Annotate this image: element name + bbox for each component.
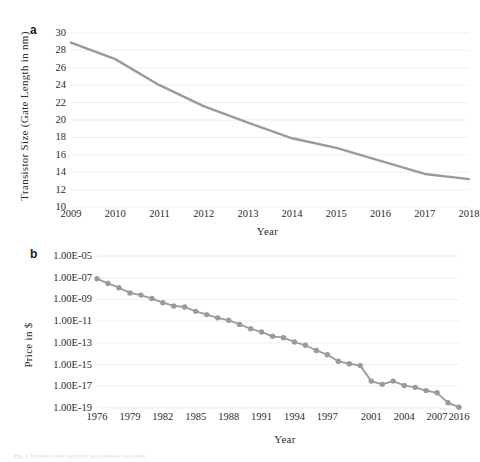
panel-a-y-tick-label: 16	[36, 150, 66, 161]
panel-a-series-line	[71, 43, 469, 180]
panel-a-x-tick-label: 2018	[447, 209, 480, 220]
panel-a-y-tick-label: 30	[36, 28, 66, 39]
panel-b-data-point	[336, 359, 341, 364]
panel-b-data-point	[325, 352, 330, 357]
panel-b-data-point	[248, 326, 253, 331]
panel-b-data-point	[237, 322, 242, 327]
panel-b-data-point	[369, 378, 374, 383]
panel-b-data-point	[358, 363, 363, 368]
panel-b-data-point	[138, 292, 143, 297]
panel-a-line-chart	[71, 33, 469, 207]
panel-b-data-point	[149, 296, 154, 301]
panel-b-data-point	[292, 339, 297, 344]
panel-b-data-point	[160, 300, 165, 305]
panel-b-line-chart	[97, 256, 459, 408]
panel-a: a Transistor Size (Gate Length in nm) Ye…	[0, 0, 480, 240]
panel-b-data-point	[226, 318, 231, 323]
panel-b-data-point	[434, 390, 439, 395]
panel-b-data-point	[445, 400, 450, 405]
panel-a-x-tick-label: 2009	[49, 209, 93, 220]
panel-a-y-axis-title: Transistor Size (Gate Length in nm)	[19, 26, 30, 206]
panel-b-y-axis-title: Price in $	[23, 290, 34, 400]
panel-b-data-point	[204, 312, 209, 317]
panel-a-y-tick-label: 28	[36, 45, 66, 56]
panel-b-x-tick-label: 2016	[439, 412, 479, 423]
panel-b-data-point	[94, 276, 99, 281]
panel-a-y-tick-label: 26	[36, 63, 66, 74]
panel-b-y-tick-label: 1.00E-05	[36, 251, 92, 262]
panel-a-x-tick-label: 2016	[359, 209, 403, 220]
figure-caption: Fig. 1 Transistor size and price per tra…	[14, 452, 466, 460]
panel-a-y-tick-label: 22	[36, 98, 66, 109]
panel-b-x-axis-title: Year	[95, 434, 475, 445]
panel-b-data-point	[412, 385, 417, 390]
panel-b-data-point	[193, 309, 198, 314]
panel-b-data-point	[215, 315, 220, 320]
panel-b-data-point	[281, 335, 286, 340]
panel-b-data-point	[116, 285, 121, 290]
panel-b-data-point	[347, 361, 352, 366]
panel-b-x-tick-label: 1997	[307, 412, 347, 423]
panel-b-data-point	[171, 303, 176, 308]
panel-b-y-tick-label: 1.00E-17	[36, 381, 92, 392]
panel-a-y-tick-label: 14	[36, 167, 66, 178]
panel-b-y-tick-label: 1.00E-11	[36, 316, 92, 327]
panel-b-data-point	[380, 382, 385, 387]
panel-a-x-tick-label: 2013	[226, 209, 270, 220]
panel-a-x-axis-title: Year	[60, 226, 475, 237]
panel-b-plot-area	[97, 256, 459, 408]
panel-a-y-tick-label: 18	[36, 132, 66, 143]
panel-b-data-point	[390, 378, 395, 383]
panel-b-data-point	[303, 343, 308, 348]
figure-root: a Transistor Size (Gate Length in nm) Ye…	[0, 0, 480, 462]
panel-b-data-point	[270, 334, 275, 339]
panel-b-data-point	[423, 388, 428, 393]
panel-b-data-point	[105, 281, 110, 286]
panel-a-x-tick-label: 2015	[314, 209, 358, 220]
panel-b-data-point	[456, 404, 461, 409]
panel-b-y-tick-label: 1.00E-15	[36, 360, 92, 371]
panel-a-x-tick-label: 2011	[137, 209, 181, 220]
panel-b-y-tick-label: 1.00E-13	[36, 338, 92, 349]
panel-b: b Price in $ Year 1.00E-051.00E-071.00E-…	[0, 240, 480, 450]
panel-a-x-tick-label: 2017	[403, 209, 447, 220]
panel-a-x-tick-label: 2012	[182, 209, 226, 220]
panel-b-data-point	[401, 383, 406, 388]
panel-a-x-tick-label: 2014	[270, 209, 314, 220]
panel-b-data-point	[259, 329, 264, 334]
panel-a-x-tick-label: 2010	[93, 209, 137, 220]
panel-b-data-point	[182, 304, 187, 309]
panel-b-data-point	[127, 290, 132, 295]
panel-a-y-tick-label: 20	[36, 115, 66, 126]
panel-a-plot-area	[71, 33, 469, 207]
panel-a-y-tick-label: 24	[36, 80, 66, 91]
panel-b-y-tick-label: 1.00E-09	[36, 294, 92, 305]
panel-b-y-tick-label: 1.00E-07	[36, 273, 92, 284]
panel-a-y-tick-label: 12	[36, 185, 66, 196]
panel-b-data-point	[314, 348, 319, 353]
